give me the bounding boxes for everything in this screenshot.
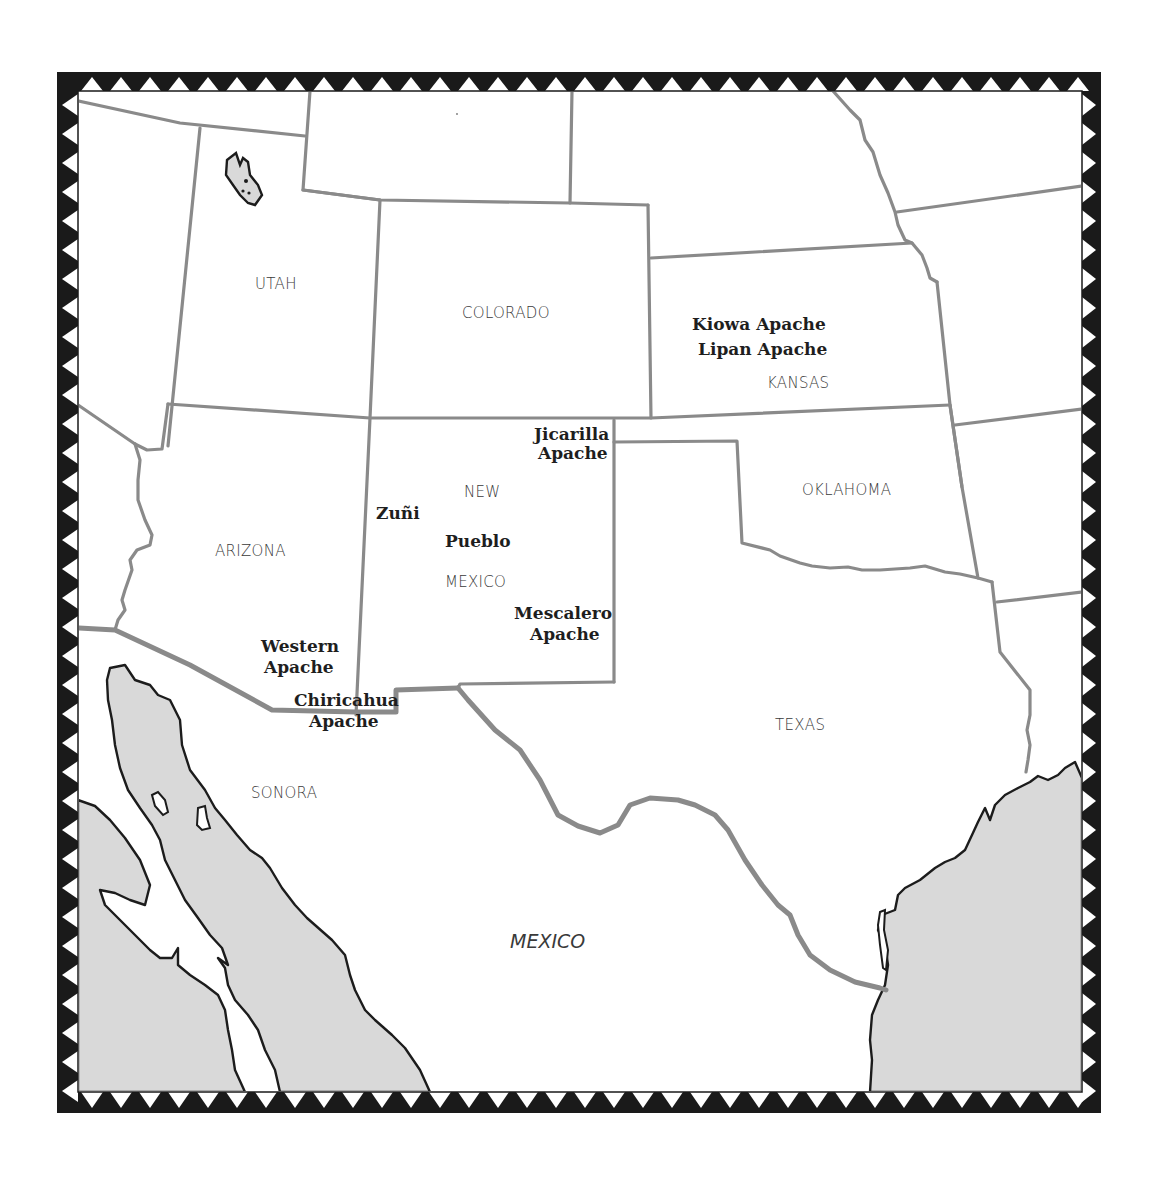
map-speck bbox=[456, 113, 458, 115]
sonora-label: SONORA bbox=[251, 784, 317, 802]
arizona-label: ARIZONA bbox=[215, 542, 286, 560]
apache-territories-map: UTAHCOLORADOKANSASOKLAHOMAARIZONANEWMEXI… bbox=[0, 0, 1162, 1180]
mescalero-apache-1-label: Mescalero bbox=[514, 603, 612, 623]
jicarilla-apache-1-label: Jicarilla bbox=[532, 424, 609, 444]
oklahoma-label: OKLAHOMA bbox=[802, 481, 891, 499]
zuni-label: Zuñi bbox=[376, 503, 420, 523]
mexico-label: MEXICO bbox=[510, 930, 585, 952]
border-wyoming-east bbox=[570, 91, 572, 203]
kiowa-apache-label: Kiowa Apache bbox=[692, 314, 826, 334]
kansas-label: KANSAS bbox=[767, 374, 829, 392]
lake-island-dot bbox=[244, 179, 248, 183]
western-apache-2-label: Apache bbox=[263, 657, 334, 677]
chiricahua-apache-1-label: Chiricahua bbox=[294, 690, 399, 710]
country-labels: MEXICO bbox=[510, 930, 585, 952]
jicarilla-apache-2-label: Apache bbox=[537, 443, 608, 463]
mescalero-apache-2-label: Apache bbox=[529, 624, 600, 644]
new-mexico-line2-label: MEXICO bbox=[445, 573, 506, 591]
chiricahua-apache-2-label: Apache bbox=[308, 711, 379, 731]
western-apache-1-label: Western bbox=[260, 636, 339, 656]
pueblo-label: Pueblo bbox=[445, 531, 511, 551]
lipan-apache-label: Lipan Apache bbox=[698, 339, 827, 359]
lake-island-dot bbox=[241, 189, 244, 192]
colorado-label: COLORADO bbox=[462, 304, 550, 322]
map-canvas: UTAHCOLORADOKANSASOKLAHOMAARIZONANEWMEXI… bbox=[0, 0, 1162, 1180]
texas-label: TEXAS bbox=[775, 716, 825, 734]
lake-island-dot bbox=[247, 191, 250, 194]
utah-label: UTAH bbox=[255, 275, 297, 293]
new-mexico-line1-label: NEW bbox=[464, 483, 500, 501]
